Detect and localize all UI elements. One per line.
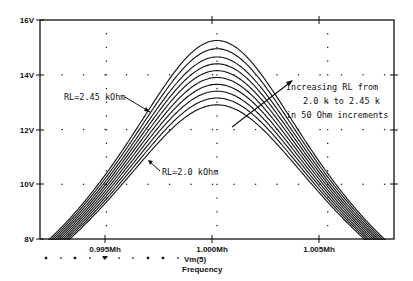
x-tick-0995: 0.995Mh	[89, 245, 121, 254]
x-tick-1000: 1.000Mh	[196, 245, 228, 254]
note-line-1: Increasing RL from	[286, 82, 378, 92]
curve-family	[40, 41, 394, 264]
curve-2.40	[40, 49, 394, 250]
curve-2.05	[40, 98, 394, 262]
note-line-2: 2.0 k to 2.45 k	[303, 96, 380, 106]
annotation-rl-bottom: RL=2.0 kOhm	[162, 167, 218, 177]
y-tick-16: 16V	[20, 16, 35, 25]
annotation-rl-top: RL=2.45 kOhm	[64, 92, 125, 102]
y-tick-14: 14V	[20, 71, 35, 80]
legend-series-label: Vm(5)	[184, 255, 207, 264]
frequency-response-chart: 16V 14V 12V 10V 8V 0.995Mh 1.000Mh 1.005…	[0, 0, 413, 281]
y-tick-8: 8V	[24, 235, 34, 244]
x-axis-label: Frequency	[182, 265, 223, 274]
x-tick-1005: 1.005Mh	[303, 245, 335, 254]
annotations: RL=2.45 kOhm RL=2.0 kOhm Increasing RL f…	[64, 80, 388, 177]
note-line-3: in 50 Ohm increments	[286, 110, 388, 120]
y-tick-10: 10V	[20, 180, 35, 189]
y-tick-12: 12V	[20, 126, 35, 135]
